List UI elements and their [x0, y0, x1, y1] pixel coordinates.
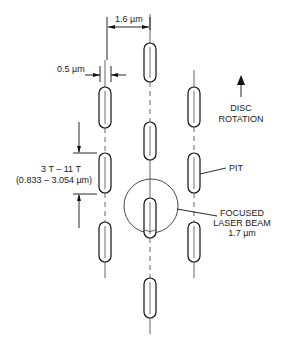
disc-rotation-indicator: DISC ROTATION — [218, 75, 263, 124]
beam-label-line2: LASER BEAM — [213, 218, 271, 228]
pit — [99, 222, 111, 262]
pit-length-label: 3 T – 11 T — [41, 164, 81, 174]
pit-length-range-label: (0.833 – 3.054 µm) — [16, 175, 92, 185]
pit — [99, 153, 111, 193]
pits — [99, 43, 200, 318]
pit — [188, 153, 200, 193]
pit — [144, 122, 156, 160]
beam-label-line1: FOCUSED — [220, 208, 265, 218]
pit-label: PIT — [229, 163, 244, 173]
pit — [188, 222, 200, 262]
pit-width-dimension: 0.5 µm — [57, 64, 126, 82]
beam-size-label: 1.7 µm — [228, 228, 256, 238]
pit-under-beam — [144, 198, 156, 238]
up-arrow-icon — [237, 75, 245, 85]
cd-pit-diagram: 1.6 µm 0.5 µm 3 T – 11 T (0.833 – 3.054 … — [0, 0, 283, 352]
pit-callout: PIT — [200, 163, 244, 174]
pit — [188, 87, 200, 127]
pit — [144, 278, 156, 318]
pit-width-label: 0.5 µm — [57, 64, 85, 74]
rotation-label-line2: ROTATION — [218, 114, 263, 124]
pit — [99, 87, 111, 128]
pit — [144, 43, 156, 82]
pit-length-dimension: 3 T – 11 T (0.833 – 3.054 µm) — [16, 122, 97, 228]
rotation-label-line1: DISC — [230, 103, 252, 113]
track-pitch-label: 1.6 µm — [115, 14, 143, 24]
